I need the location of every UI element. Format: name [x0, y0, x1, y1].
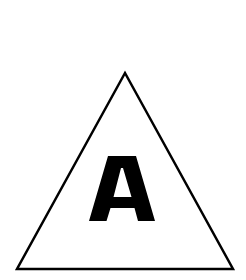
triangle-sign: A: [0, 0, 246, 280]
